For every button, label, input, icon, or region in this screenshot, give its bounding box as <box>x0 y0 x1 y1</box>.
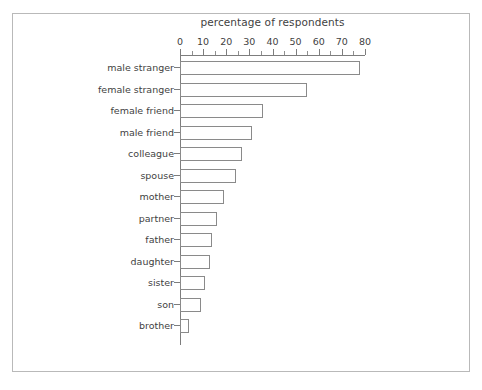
x-tick-major <box>319 49 320 55</box>
bar <box>180 126 252 140</box>
figure-canvas: percentage of respondents 01020304050607… <box>0 0 482 390</box>
bar <box>180 169 236 183</box>
category-label: female stranger <box>98 84 174 95</box>
x-tick-major <box>365 49 366 55</box>
bar-row: spouse <box>0 166 482 186</box>
x-tick-minor <box>353 51 354 55</box>
category-label: sister <box>148 277 174 288</box>
x-tick-label: 50 <box>290 36 302 47</box>
bar <box>180 190 224 204</box>
bar <box>180 319 189 333</box>
x-tick-major <box>249 49 250 55</box>
category-label: male stranger <box>107 62 174 73</box>
x-tick-minor <box>284 51 285 55</box>
category-label: male friend <box>120 127 174 138</box>
x-tick-major <box>273 49 274 55</box>
category-label: son <box>157 299 174 310</box>
bar <box>180 104 263 118</box>
x-tick-label: 30 <box>243 36 255 47</box>
category-label: colleague <box>128 148 174 159</box>
bar-row: female stranger <box>0 80 482 100</box>
bar <box>180 276 205 290</box>
category-label: daughter <box>131 256 174 267</box>
bar <box>180 298 201 312</box>
category-label: spouse <box>140 170 174 181</box>
bar-row: partner <box>0 209 482 229</box>
bar-row: male stranger <box>0 58 482 78</box>
x-tick-label: 40 <box>266 36 278 47</box>
x-tick-major <box>296 49 297 55</box>
x-tick-label: 70 <box>336 36 348 47</box>
bar <box>180 147 242 161</box>
bar <box>180 212 217 226</box>
x-tick-minor <box>215 51 216 55</box>
category-label: partner <box>139 213 174 224</box>
x-tick-minor <box>307 51 308 55</box>
x-tick-major <box>342 49 343 55</box>
bar-row: sister <box>0 273 482 293</box>
x-tick-minor <box>261 51 262 55</box>
x-tick-label: 10 <box>197 36 209 47</box>
x-tick-label: 60 <box>313 36 325 47</box>
bar <box>180 83 307 97</box>
x-tick-label: 80 <box>359 36 371 47</box>
x-axis-title: percentage of respondents <box>180 16 365 28</box>
bar-row: colleague <box>0 144 482 164</box>
category-label: brother <box>139 320 174 331</box>
x-axis-line <box>180 55 365 56</box>
category-label: father <box>145 234 174 245</box>
x-tick-major <box>203 49 204 55</box>
category-label: mother <box>139 191 174 202</box>
x-axis-tick-labels: 01020304050607080 <box>0 36 482 50</box>
x-tick-label: 0 <box>177 36 183 47</box>
x-tick-minor <box>192 51 193 55</box>
bar-row: brother <box>0 316 482 336</box>
x-tick-major <box>226 49 227 55</box>
x-tick-minor <box>238 51 239 55</box>
bar-chart: percentage of respondents 01020304050607… <box>0 0 482 390</box>
bar-row: daughter <box>0 252 482 272</box>
bar <box>180 233 212 247</box>
bar-row: female friend <box>0 101 482 121</box>
x-tick-minor <box>330 51 331 55</box>
x-tick-label: 20 <box>220 36 232 47</box>
bar-row: mother <box>0 187 482 207</box>
category-label: female friend <box>110 105 174 116</box>
bar <box>180 255 210 269</box>
bar-row: son <box>0 295 482 315</box>
bar-row: male friend <box>0 123 482 143</box>
bar-row: father <box>0 230 482 250</box>
bar <box>180 61 360 75</box>
